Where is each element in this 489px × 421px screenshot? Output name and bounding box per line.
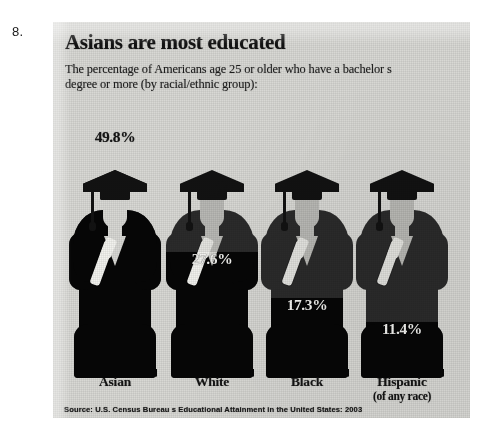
bar-figure-black: 17.3%	[259, 110, 355, 378]
value-label-white: 27.6%	[164, 250, 260, 268]
category-label-asian: Asian	[60, 374, 170, 389]
graphic-headline: Asians are most educated	[65, 30, 286, 54]
category-label-black: Black	[252, 374, 362, 389]
category-label-hispanic: Hispanic(of any race)	[347, 374, 457, 404]
tassel-icon	[91, 188, 94, 226]
bar-fill	[67, 156, 163, 378]
tassel-icon	[283, 188, 286, 226]
category-axis: AsianWhiteBlackHispanic(of any race)	[53, 374, 470, 408]
newspaper-infographic-panel: Asians are most educated The percentage …	[53, 22, 470, 418]
tassel-icon	[188, 188, 191, 226]
graphic-subhead: The percentage of Americans age 25 or ol…	[65, 62, 405, 91]
pictorial-bar-chart: 49.8%27.6%17.3%11.4%	[53, 110, 470, 378]
question-number: 8.	[12, 24, 23, 39]
bar-figure-asian: 49.8%	[67, 110, 163, 378]
source-note: Source: U.S. Census Bureau s Educational…	[64, 405, 464, 414]
bar-figure-hispanic: 11.4%	[354, 110, 450, 378]
category-sublabel: (of any race)	[347, 389, 457, 404]
category-label-white: White	[157, 374, 267, 389]
tassel-icon	[378, 188, 381, 226]
bar-figure-white: 27.6%	[164, 110, 260, 378]
value-label-black: 17.3%	[259, 296, 355, 314]
value-label-asian: 49.8%	[67, 128, 163, 146]
value-label-hispanic: 11.4%	[354, 320, 450, 338]
bar-fill	[164, 252, 260, 378]
